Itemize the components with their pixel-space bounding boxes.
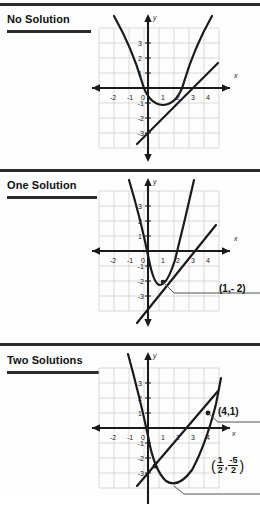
svg-text:3: 3 bbox=[191, 94, 195, 101]
svg-text:-2: -2 bbox=[138, 278, 144, 285]
svg-text:1: 1 bbox=[161, 257, 165, 264]
section-heading-no-solution: No Solution bbox=[7, 13, 70, 25]
axis-arrowheads bbox=[92, 352, 230, 432]
svg-text:4: 4 bbox=[206, 94, 210, 101]
svg-text:1: 1 bbox=[161, 94, 165, 101]
x-tick-labels: -2 -1 0 1 2 3 4 bbox=[110, 257, 210, 264]
axes bbox=[92, 16, 230, 160]
y-axis-label: y bbox=[152, 352, 157, 360]
x-axis-label: x bbox=[233, 72, 238, 79]
x-axis-label: x bbox=[233, 235, 238, 242]
coordinate-separator: , bbox=[225, 461, 228, 471]
fraction-y: -5 2 bbox=[228, 456, 238, 476]
svg-text:-2: -2 bbox=[138, 115, 144, 122]
annotation-two-solutions-upper-point: (4,1) bbox=[218, 406, 239, 417]
fraction-y-denominator: 2 bbox=[230, 466, 237, 475]
svg-text:-3: -3 bbox=[138, 130, 144, 137]
graph-svg-two-solutions: x y -2 -1 0 1 2 3 4 bbox=[88, 346, 260, 506]
svg-text:-1: -1 bbox=[138, 440, 144, 447]
svg-text:1: 1 bbox=[138, 233, 142, 240]
svg-text:1: 1 bbox=[161, 434, 165, 441]
svg-text:3: 3 bbox=[138, 203, 142, 210]
x-tick-labels: -2 -1 0 1 2 3 4 bbox=[110, 94, 210, 101]
svg-text:3: 3 bbox=[191, 434, 195, 441]
heading-underline bbox=[7, 196, 97, 199]
section-heading-one-solution: One Solution bbox=[7, 179, 77, 191]
axis-arrowheads bbox=[92, 178, 230, 327]
svg-text:-1: -1 bbox=[138, 100, 144, 107]
open-paren: ( bbox=[211, 459, 216, 473]
svg-text:4: 4 bbox=[206, 257, 210, 264]
svg-text:-1: -1 bbox=[127, 94, 133, 101]
heading-underline bbox=[7, 30, 91, 33]
graph-one-solution: x y -2 -1 0 1 2 3 4 bbox=[88, 175, 248, 330]
leader-line-lower bbox=[174, 486, 260, 494]
svg-text:3: 3 bbox=[138, 40, 142, 47]
svg-text:-1: -1 bbox=[127, 257, 133, 264]
x-axis-label: x bbox=[231, 430, 236, 437]
svg-text:-1: -1 bbox=[127, 434, 133, 441]
svg-text:-2: -2 bbox=[110, 257, 116, 264]
section-heading-two-solutions: Two Solutions bbox=[7, 354, 83, 366]
graph-svg-one-solution: x y -2 -1 0 1 2 3 4 bbox=[88, 175, 260, 330]
svg-text:-2: -2 bbox=[110, 94, 116, 101]
section-two-solutions: Two Solutions bbox=[0, 330, 260, 496]
fraction-x: 1 2 bbox=[217, 456, 224, 476]
x-tick-labels: -2 -1 0 1 2 3 4 bbox=[110, 434, 210, 441]
section-divider-rule bbox=[0, 3, 260, 6]
svg-text:3: 3 bbox=[138, 380, 142, 387]
svg-text:-3: -3 bbox=[138, 293, 144, 300]
section-divider-rule bbox=[0, 169, 260, 172]
svg-text:3: 3 bbox=[191, 257, 195, 264]
annotation-one-solution-point: (1,- 2) bbox=[219, 283, 246, 294]
section-one-solution: One Solution bbox=[0, 165, 260, 330]
graph-svg-no-solution: x y -2 -1 0 1 2 3 bbox=[88, 8, 248, 163]
svg-text:2: 2 bbox=[138, 55, 142, 62]
section-no-solution: No Solution bbox=[0, 0, 260, 165]
close-paren: ) bbox=[239, 459, 244, 473]
axes bbox=[92, 180, 230, 325]
svg-text:-2: -2 bbox=[110, 434, 116, 441]
graph-no-solution: x y -2 -1 0 1 2 3 bbox=[88, 8, 248, 163]
svg-text:-2: -2 bbox=[138, 455, 144, 462]
fraction-x-denominator: 2 bbox=[217, 466, 224, 475]
svg-text:-1: -1 bbox=[138, 263, 144, 270]
annotation-two-solutions-lower-point: ( 1 2 , -5 2 ) bbox=[211, 456, 244, 476]
graph-two-solutions: x y -2 -1 0 1 2 3 4 bbox=[88, 346, 248, 501]
parabola-curve bbox=[128, 354, 221, 483]
y-axis-label: y bbox=[152, 178, 157, 186]
svg-text:2: 2 bbox=[176, 257, 180, 264]
intersection-marker-lower bbox=[153, 464, 158, 469]
svg-text:-3: -3 bbox=[138, 470, 144, 477]
heading-underline bbox=[7, 371, 99, 374]
y-axis-label: y bbox=[152, 14, 157, 22]
